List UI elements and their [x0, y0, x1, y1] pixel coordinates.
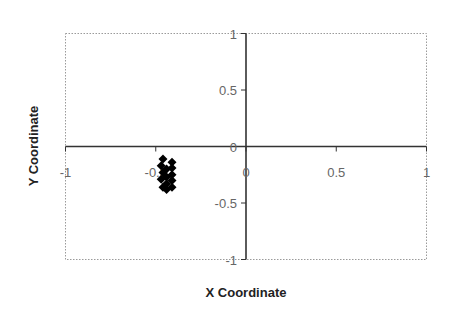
scatter-chart: -1-0.500.51-1-0.500.51 X Coordinate Y Co… — [0, 0, 449, 317]
diamond-marker — [158, 154, 167, 163]
y-tick-label: 0 — [230, 140, 237, 155]
y-tick-label: -1 — [225, 253, 237, 268]
x-axis-title: X Coordinate — [206, 285, 287, 300]
y-tick-label: -0.5 — [215, 196, 237, 211]
x-tick-label: 0 — [242, 165, 249, 180]
x-tick-label: -1 — [60, 165, 72, 180]
x-tick-label: 0.5 — [327, 165, 345, 180]
y-tick-label: 1 — [230, 27, 237, 42]
x-tick-label: 1 — [423, 165, 430, 180]
y-axis-title: Y Coordinate — [26, 106, 41, 187]
y-tick-label: 0.5 — [219, 83, 237, 98]
